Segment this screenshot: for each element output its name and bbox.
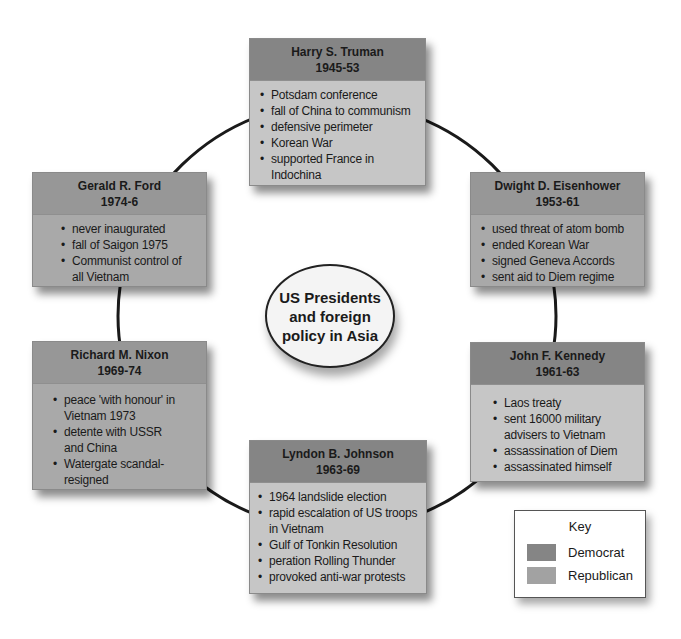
policy-item: •defensive perimeter (260, 119, 417, 135)
bullet-icon: • (260, 151, 264, 167)
center-title-oval: US Presidents and foreign policy in Asia (265, 264, 395, 368)
bullet-icon: • (258, 537, 262, 553)
bullet-icon: • (481, 269, 485, 285)
republican-swatch (527, 567, 556, 584)
bullet-icon: • (258, 505, 262, 521)
president-years: 1953-61 (475, 194, 640, 210)
president-header: John F. Kennedy 1961-63 (471, 343, 644, 385)
president-box-eisenhower: Dwight D. Eisenhower 1953-61 •used threa… (470, 172, 645, 287)
policy-item: •ended Korean War (481, 237, 636, 253)
president-box-johnson: Lyndon B. Johnson 1963-69 •1964 landslid… (249, 440, 427, 594)
bullet-icon: • (260, 87, 264, 103)
legend-title: Key (515, 519, 645, 534)
policy-item: •1964 landslide election (258, 489, 418, 505)
president-years: 1961-63 (475, 364, 640, 380)
president-header: Dwight D. Eisenhower 1953-61 (471, 173, 644, 215)
president-box-nixon: Richard M. Nixon 1969-74 •peace 'with ho… (32, 341, 207, 490)
bullet-icon: • (258, 489, 262, 505)
democrat-swatch (527, 544, 556, 561)
policy-list: •1964 landslide election •rapid escalati… (250, 483, 426, 591)
bullet-icon: • (493, 443, 497, 459)
president-name: Dwight D. Eisenhower (475, 178, 640, 194)
president-header: Lyndon B. Johnson 1963-69 (250, 441, 426, 483)
policy-item: •Communist control of all Vietnam (61, 253, 186, 285)
bullet-icon: • (258, 553, 262, 569)
policy-item: •Watergate scandal-resigned (53, 456, 192, 488)
policy-list: •Potsdam conference •fall of China to co… (250, 81, 425, 189)
center-title-line: US Presidents (279, 288, 381, 307)
president-years: 1969-74 (37, 363, 202, 379)
president-box-ford: Gerald R. Ford 1974-6 •never inaugurated… (32, 172, 207, 287)
president-years: 1963-69 (254, 462, 422, 478)
president-header: Harry S. Truman 1945-53 (250, 39, 425, 81)
center-title-line: and foreign (279, 307, 381, 326)
policy-item: •Potsdam conference (260, 87, 417, 103)
policy-item: •Korean War (260, 135, 417, 151)
policy-item: •detente with USSR and China (53, 424, 192, 456)
bullet-icon: • (258, 569, 262, 585)
bullet-icon: • (61, 221, 65, 237)
bullet-icon: • (53, 456, 57, 472)
president-name: Harry S. Truman (254, 44, 421, 60)
policy-item: •fall of Saigon 1975 (61, 237, 186, 253)
legend-key: Key Democrat Republican (514, 510, 646, 598)
legend-item-democrat: Democrat (527, 544, 624, 561)
president-box-truman: Harry S. Truman 1945-53 •Potsdam confere… (249, 38, 426, 186)
policy-item: •Gulf of Tonkin Resolution (258, 537, 418, 553)
policy-item: •signed Geneva Accords (481, 253, 636, 269)
policy-item: •peration Rolling Thunder (258, 553, 418, 569)
bullet-icon: • (260, 119, 264, 135)
policy-item: •peace 'with honour' in Vietnam 1973 (53, 392, 192, 424)
policy-item: •provoked anti-war protests (258, 569, 418, 585)
center-title-line: policy in Asia (279, 326, 381, 345)
president-years: 1974-6 (37, 194, 202, 210)
bullet-icon: • (493, 395, 497, 411)
policy-item: •rapid escalation of US troops in Vietna… (258, 505, 418, 537)
policy-item: •fall of China to communism (260, 103, 417, 119)
president-header: Richard M. Nixon 1969-74 (33, 342, 206, 384)
president-name: Gerald R. Ford (37, 178, 202, 194)
president-box-kennedy: John F. Kennedy 1961-63 •Laos treaty •se… (470, 342, 645, 482)
legend-label: Democrat (568, 545, 624, 560)
policy-item: •sent aid to Diem regime (481, 269, 636, 285)
president-name: John F. Kennedy (475, 348, 640, 364)
policy-item: •assassinated himself (493, 459, 636, 475)
bullet-icon: • (61, 237, 65, 253)
policy-item: •Laos treaty (493, 395, 636, 411)
bullet-icon: • (260, 103, 264, 119)
policy-list: •used threat of atom bomb •ended Korean … (471, 215, 644, 291)
bullet-icon: • (61, 253, 65, 269)
bullet-icon: • (53, 392, 57, 408)
policy-item: •never inaugurated (61, 221, 186, 237)
bullet-icon: • (481, 221, 485, 237)
bullet-icon: • (493, 459, 497, 475)
policy-item: •assassination of Diem (493, 443, 636, 459)
legend-label: Republican (568, 568, 633, 583)
bullet-icon: • (493, 411, 497, 427)
policy-list: •never inaugurated •fall of Saigon 1975 … (33, 215, 206, 291)
policy-item: •used threat of atom bomb (481, 221, 636, 237)
policy-list: •Laos treaty •sent 16000 military advise… (471, 385, 644, 481)
bullet-icon: • (260, 135, 264, 151)
president-years: 1945-53 (254, 60, 421, 76)
legend-item-republican: Republican (527, 567, 633, 584)
policy-item: •sent 16000 military advisers to Vietnam (493, 411, 636, 443)
policy-list: •peace 'with honour' in Vietnam 1973 •de… (33, 384, 206, 494)
president-name: Lyndon B. Johnson (254, 446, 422, 462)
bullet-icon: • (481, 237, 485, 253)
president-name: Richard M. Nixon (37, 347, 202, 363)
president-header: Gerald R. Ford 1974-6 (33, 173, 206, 215)
policy-item: •supported France in Indochina (260, 151, 417, 183)
bullet-icon: • (53, 424, 57, 440)
bullet-icon: • (481, 253, 485, 269)
